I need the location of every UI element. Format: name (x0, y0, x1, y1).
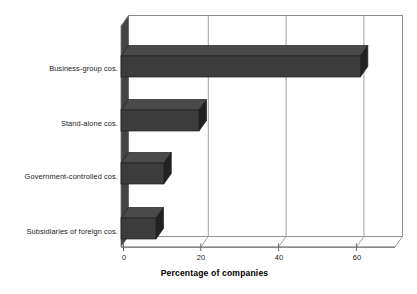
x-tick-label-0: 0 (122, 253, 126, 262)
x-tick-label-40: 40 (275, 253, 283, 262)
bar-front-face (121, 163, 164, 184)
x-axis-title: Percentage of companies (161, 268, 269, 278)
bar-government-controlled (121, 153, 171, 185)
bar-chart: Business-group cos. Stand-alone cos. Gov… (0, 0, 417, 294)
bar-top-face (121, 153, 171, 164)
bar-front-face (121, 218, 156, 239)
bar-top-face (121, 46, 368, 57)
bar-subsidiaries-foreign (121, 208, 164, 240)
bar-front-face (121, 56, 360, 77)
bar-front-face (121, 110, 199, 131)
x-tick-label-20: 20 (197, 253, 205, 262)
plot-area (0, 0, 417, 294)
x-tick-label-60: 60 (353, 253, 361, 262)
bar-top-face (121, 100, 207, 111)
x-axis-title-wrap: Percentage of companies (0, 268, 417, 278)
bar-stand-alone (121, 100, 207, 132)
bar-business-group (121, 46, 368, 78)
